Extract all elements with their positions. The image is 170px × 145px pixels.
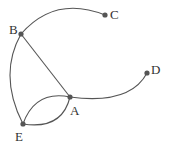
edge-b-c (21, 8, 105, 34)
node-a (67, 94, 72, 99)
label-c: C (110, 7, 119, 22)
label-b: B (9, 22, 18, 37)
graph-diagram: B C D A E (0, 0, 170, 145)
node-c (102, 12, 107, 17)
label-a: A (70, 103, 80, 118)
edge-b-a (21, 34, 70, 97)
edge-a-e-upper (23, 96, 70, 124)
node-b (18, 31, 23, 36)
label-d: D (151, 62, 160, 77)
label-e: E (15, 129, 23, 144)
edge-a-d (70, 73, 147, 99)
node-e (20, 121, 25, 126)
edge-b-e (10, 34, 23, 124)
node-d (144, 70, 149, 75)
